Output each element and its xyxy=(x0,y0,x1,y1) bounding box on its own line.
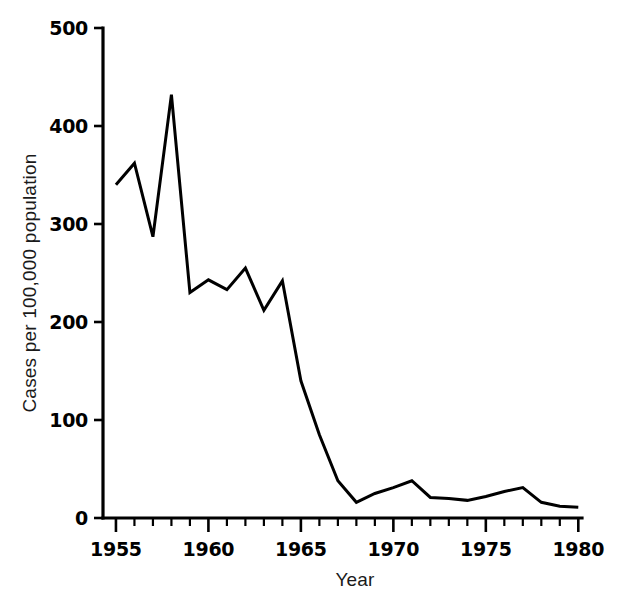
data-line-series xyxy=(116,95,578,508)
chart-container: Cases per 100,000 population Year 010020… xyxy=(0,0,626,607)
y-axis-title: Cases per 100,000 population xyxy=(19,153,40,412)
x-axis-tick-label: 1965 xyxy=(275,538,327,560)
data-series-group xyxy=(116,95,578,508)
y-axis-tick-label: 500 xyxy=(49,17,88,39)
x-axis-tick-labels: 195519601965197019751980 xyxy=(90,538,604,560)
x-axis-title: Year xyxy=(335,569,375,590)
x-axis-tick-label: 1960 xyxy=(183,538,235,560)
x-axis-tick-label: 1955 xyxy=(90,538,142,560)
x-axis-tick-label: 1980 xyxy=(552,538,604,560)
x-axis-ticks xyxy=(116,518,578,532)
y-axis-tick-labels: 0100200300400500 xyxy=(49,17,88,529)
y-axis-tick-label: 0 xyxy=(75,507,88,529)
y-axis-tick-label: 300 xyxy=(49,213,88,235)
y-axis-tick-label: 400 xyxy=(49,115,88,137)
measles-incidence-line-chart: Cases per 100,000 population Year 010020… xyxy=(0,0,626,607)
y-axis-tick-label: 100 xyxy=(49,409,88,431)
y-axis-tick-label: 200 xyxy=(49,311,88,333)
x-axis-tick-label: 1970 xyxy=(368,538,420,560)
x-axis-tick-label: 1975 xyxy=(460,538,512,560)
